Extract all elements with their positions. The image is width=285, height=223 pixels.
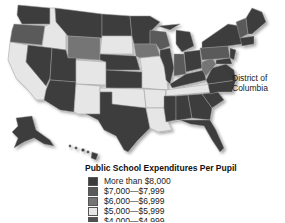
state-indiana bbox=[174, 54, 186, 76]
state-maine bbox=[246, 8, 266, 34]
state-colorado bbox=[76, 60, 106, 85]
dc-label-line1: District of bbox=[232, 73, 268, 83]
state-north-dakota bbox=[102, 14, 132, 36]
legend: Public School Expenditures Per Pupil Mor… bbox=[85, 163, 285, 222]
state-hawaii bbox=[69, 145, 98, 160]
legend-item: $5,000—$5,999 bbox=[88, 206, 285, 216]
state-iowa bbox=[134, 44, 160, 58]
state-florida bbox=[180, 120, 224, 152]
legend-label: More than $8,000 bbox=[104, 176, 171, 186]
legend-swatch bbox=[88, 217, 98, 223]
state-new-mexico bbox=[74, 84, 100, 114]
state-kansas bbox=[106, 70, 142, 88]
state-washington bbox=[17, 5, 50, 24]
legend-label: $7,000—$7,999 bbox=[104, 186, 165, 196]
legend-title: Public School Expenditures Per Pupil bbox=[85, 163, 285, 173]
state-mississippi bbox=[164, 96, 176, 122]
state-pennsylvania bbox=[200, 46, 230, 60]
state-ohio bbox=[184, 50, 202, 72]
legend-item: $6,000—$6,999 bbox=[88, 196, 285, 206]
legend-item: $4,000—$4,999 bbox=[88, 216, 285, 222]
dc-label-line2: Columbia bbox=[232, 83, 268, 93]
state-nebraska bbox=[100, 54, 140, 70]
legend-label: $4,000—$4,999 bbox=[104, 216, 165, 222]
legend-swatch bbox=[88, 197, 98, 206]
legend-item: $7,000—$7,999 bbox=[88, 186, 285, 196]
legend-swatch bbox=[88, 207, 98, 216]
state-new-york bbox=[202, 24, 242, 48]
legend-swatch bbox=[88, 187, 98, 196]
legend-label: $6,000—$6,999 bbox=[104, 196, 165, 206]
state-arkansas bbox=[144, 89, 166, 108]
state-oregon bbox=[10, 24, 45, 45]
state-alaska bbox=[12, 116, 54, 148]
dc-label: District of Columbia bbox=[232, 73, 268, 93]
state-wyoming bbox=[68, 36, 100, 60]
state-south-dakota bbox=[100, 36, 133, 54]
legend-swatch bbox=[88, 177, 98, 186]
legend-label: $5,000—$5,999 bbox=[104, 206, 165, 216]
state-arizona bbox=[44, 80, 76, 112]
legend-item: More than $8,000 bbox=[88, 176, 285, 186]
state-new-jersey bbox=[230, 48, 236, 60]
state-massachusetts-ct-ri bbox=[240, 36, 254, 46]
